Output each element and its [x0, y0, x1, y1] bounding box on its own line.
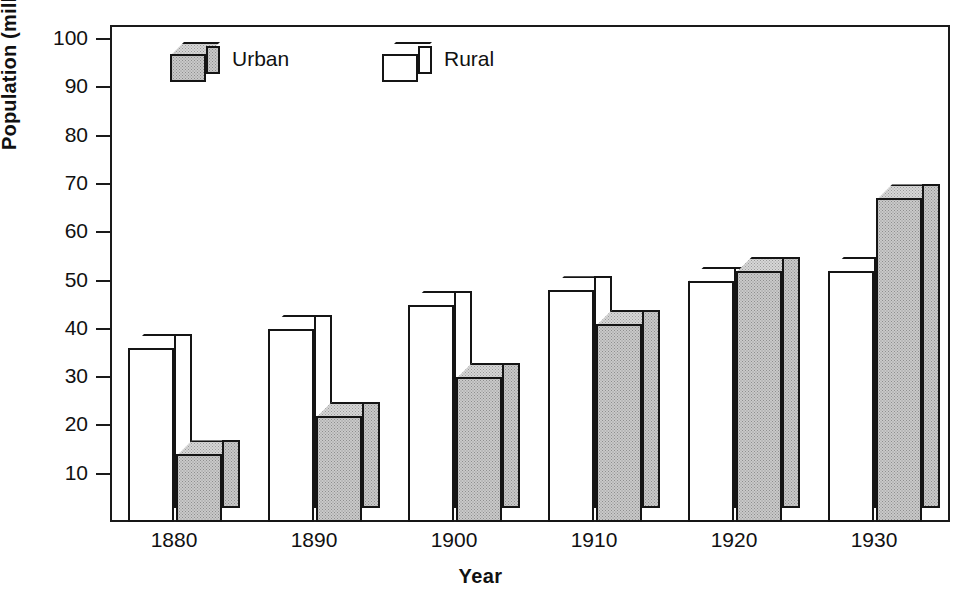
legend-label: Rural — [444, 47, 494, 71]
gray-cube-icon — [170, 42, 226, 84]
bar-front-face — [828, 271, 874, 522]
x-tick-label-1930: 1930 — [851, 528, 898, 552]
legend-cube-front — [170, 54, 206, 82]
bar-urban-1930 — [876, 184, 938, 522]
bar-front-face — [408, 305, 454, 522]
bar-front-face — [128, 348, 174, 522]
legend-cube-side — [418, 46, 432, 74]
bar-front-face — [316, 416, 362, 522]
bar-side-face — [642, 310, 660, 508]
x-tick-label-1880: 1880 — [151, 528, 198, 552]
bar-front-face — [736, 271, 782, 522]
bar-side-face — [222, 440, 240, 508]
bar-side-face — [782, 257, 800, 508]
bar-front-face — [268, 329, 314, 522]
bar-urban-1910 — [596, 310, 658, 522]
bar-front-face — [688, 281, 734, 523]
bar-side-face — [922, 184, 940, 508]
bar-urban-1920 — [736, 257, 798, 522]
bar-side-face — [502, 363, 520, 508]
x-tick-label-1890: 1890 — [291, 528, 338, 552]
chart-canvas: Population (millions) 102030405060708090… — [0, 0, 961, 596]
bar-front-face — [548, 290, 594, 522]
bar-urban-1880 — [176, 440, 238, 522]
x-tick-label-1920: 1920 — [711, 528, 758, 552]
bar-front-face — [176, 454, 222, 522]
bar-side-face — [362, 402, 380, 508]
x-tick-label-1910: 1910 — [571, 528, 618, 552]
x-tick-label-1900: 1900 — [431, 528, 478, 552]
x-axis-tick-labels: 188018901900191019201930 — [110, 528, 950, 568]
white-cube-icon — [382, 42, 438, 84]
bar-front-face — [596, 324, 642, 522]
bar-urban-1890 — [316, 402, 378, 522]
bar-series-container — [0, 0, 961, 596]
bar-front-face — [876, 198, 922, 522]
legend-label: Urban — [232, 47, 289, 71]
x-axis-title: Year — [0, 565, 961, 588]
bar-front-face — [456, 377, 502, 522]
legend-cube-side — [206, 46, 220, 74]
bar-urban-1900 — [456, 363, 518, 522]
legend-cube-front — [382, 54, 418, 82]
